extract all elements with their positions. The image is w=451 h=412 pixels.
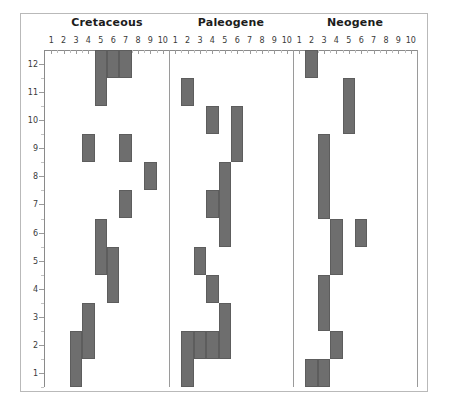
- range-bar: [82, 303, 94, 359]
- x-axis-tick-label: 5: [346, 36, 351, 45]
- range-bar: [206, 275, 218, 303]
- y-axis-minor-tick: [41, 162, 44, 163]
- y-axis-tick: [39, 204, 44, 205]
- y-axis-tick: [39, 176, 44, 177]
- y-axis-minor-tick: [41, 275, 44, 276]
- y-axis-tick: [39, 148, 44, 149]
- y-axis-minor-tick: [41, 303, 44, 304]
- y-axis-tick: [39, 233, 44, 234]
- y-axis-tick-label: 5: [23, 256, 38, 265]
- x-axis-tick-label: 10: [406, 36, 416, 45]
- x-axis-tick-label: 8: [135, 36, 140, 45]
- x-axis-tick-label: 9: [272, 36, 277, 45]
- range-bar: [318, 275, 330, 331]
- x-axis-tick-label: 3: [321, 36, 326, 45]
- x-axis-tick-label: 7: [371, 36, 376, 45]
- y-axis-tick-label: 2: [23, 340, 38, 349]
- panel-title: Paleogene: [169, 17, 293, 29]
- y-axis-tick-label: 6: [23, 228, 38, 237]
- x-axis-tick-label: 1: [49, 36, 54, 45]
- y-axis-tick-label: 8: [23, 172, 38, 181]
- y-axis-tick-label: 1: [23, 368, 38, 377]
- x-axis-tick-label: 3: [73, 36, 78, 45]
- x-axis-tick-label: 1: [297, 36, 302, 45]
- panel-paleogene: Paleogene12345678910: [169, 14, 293, 393]
- x-axis-tick-label: 10: [282, 36, 292, 45]
- x-axis-tick-label: 3: [197, 36, 202, 45]
- y-axis-minor-tick: [41, 78, 44, 79]
- x-axis-tick-label: 8: [259, 36, 264, 45]
- y-axis-tick-label: 9: [23, 144, 38, 153]
- range-bar: [95, 219, 107, 275]
- x-axis-tick-label: 5: [98, 36, 103, 45]
- range-bar: [181, 78, 193, 106]
- range-bar: [305, 50, 317, 78]
- y-axis-minor-tick: [41, 331, 44, 332]
- y-axis-tick-label: 10: [23, 116, 38, 125]
- y-axis-minor-tick: [41, 219, 44, 220]
- range-bar: [231, 106, 243, 162]
- range-bar: [194, 247, 206, 275]
- range-bar: [206, 106, 218, 134]
- x-axis-tick-label: 5: [222, 36, 227, 45]
- range-bar: [219, 162, 231, 246]
- range-bar: [194, 331, 206, 359]
- x-axis-tick-label: 4: [334, 36, 339, 45]
- panel-plot-area: [293, 50, 417, 387]
- y-axis-tick: [39, 261, 44, 262]
- panel-plot-area: [45, 50, 169, 387]
- x-axis-tick-label: 10: [158, 36, 168, 45]
- x-axis-tick-label: 6: [111, 36, 116, 45]
- x-axis-tick-label: 9: [396, 36, 401, 45]
- y-axis-tick: [39, 373, 44, 374]
- x-axis-tick-label: 7: [123, 36, 128, 45]
- y-axis-minor-tick: [41, 106, 44, 107]
- y-axis-minor-tick: [41, 190, 44, 191]
- x-axis-tick-label: 8: [383, 36, 388, 45]
- y-axis-tick-label: 11: [23, 88, 38, 97]
- range-bar: [95, 50, 107, 106]
- panel-title: Cretaceous: [45, 17, 169, 29]
- panel-cretaceous: Cretaceous12345678910: [45, 14, 169, 393]
- y-axis-minor-tick: [41, 134, 44, 135]
- chart-figure: 123456789101112 Cretaceous12345678910Pal…: [20, 13, 428, 392]
- range-bar: [305, 359, 317, 387]
- range-bar: [355, 219, 367, 247]
- plot-area: 123456789101112 Cretaceous12345678910Pal…: [21, 14, 429, 393]
- x-axis-tick-label: 2: [61, 36, 66, 45]
- range-bar: [144, 162, 156, 190]
- range-bar: [82, 134, 94, 162]
- panel-plot-area: [169, 50, 293, 387]
- x-axis-tick-label: 2: [185, 36, 190, 45]
- range-bar: [181, 331, 193, 387]
- range-bar: [70, 331, 82, 387]
- y-axis-minor-tick: [41, 247, 44, 248]
- panel-neogene: Neogene12345678910: [293, 14, 417, 393]
- x-axis-tick-label: 1: [173, 36, 178, 45]
- y-axis-tick: [39, 120, 44, 121]
- x-axis-tick-label: 4: [86, 36, 91, 45]
- y-axis-tick-label: 4: [23, 284, 38, 293]
- y-axis-tick: [39, 289, 44, 290]
- y-axis-tick-label: 12: [23, 60, 38, 69]
- range-bar: [206, 331, 218, 359]
- y-axis-tick: [39, 345, 44, 346]
- range-bar: [318, 359, 330, 387]
- range-bar: [330, 331, 342, 359]
- y-axis-minor-tick: [41, 359, 44, 360]
- y-axis-tick: [39, 92, 44, 93]
- range-bar: [318, 134, 330, 218]
- x-axis-tick-label: 6: [235, 36, 240, 45]
- y-axis-tick-label: 7: [23, 200, 38, 209]
- range-bar: [219, 303, 231, 359]
- range-bar: [330, 219, 342, 275]
- x-axis-tick-label: 4: [210, 36, 215, 45]
- x-axis-tick-label: 2: [309, 36, 314, 45]
- range-bar: [343, 78, 355, 134]
- y-axis-tick: [39, 317, 44, 318]
- x-axis-tick-label: 7: [247, 36, 252, 45]
- x-axis-tick-label: 9: [148, 36, 153, 45]
- panel-right-spine: [417, 50, 418, 387]
- y-axis-tick-label: 3: [23, 312, 38, 321]
- y-axis-minor-tick: [41, 387, 44, 388]
